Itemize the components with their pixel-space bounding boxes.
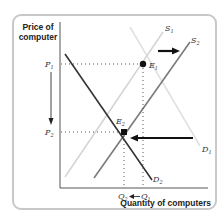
supply-curve-s1 [65, 32, 163, 177]
d1-label: D1 [201, 145, 212, 155]
p1-label: P1 [44, 60, 54, 70]
equilibrium-e1-marker [140, 61, 146, 67]
s2-label: S2 [191, 36, 200, 46]
d2-label: D2 [152, 175, 163, 185]
e1-label: E1 [148, 61, 158, 71]
p2-label: P2 [44, 128, 54, 138]
supply-demand-diagram: P1 P2 Q2 Q1 E1 E2 S1 S2 D1 D2 [0, 0, 223, 222]
equilibrium-e2-marker [121, 129, 127, 135]
s1-label: S1 [165, 24, 174, 34]
demand-shift-arrowhead-icon [130, 135, 138, 142]
demand-curve-d2 [65, 54, 152, 180]
supply-shift-arrowhead-icon [172, 48, 180, 55]
e2-label: E2 [115, 117, 125, 127]
q2-label: Q2 [118, 192, 128, 202]
quantity-change-arrowhead-icon [129, 194, 134, 199]
demand-curve-d1 [130, 27, 200, 146]
price-change-arrowhead-icon [49, 118, 54, 125]
q1-label: Q1 [141, 192, 151, 202]
